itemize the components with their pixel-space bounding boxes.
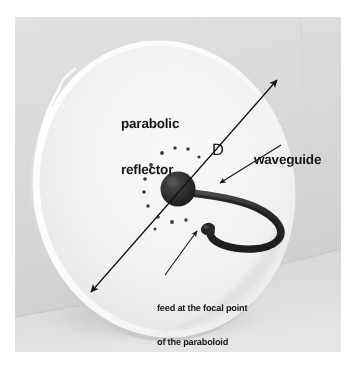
label-diameter-d: D	[212, 141, 224, 159]
label-waveguide: waveguide	[254, 152, 321, 167]
label-parabolic-reflector: parabolic reflector	[121, 86, 179, 207]
antenna-photograph: parabolic reflector D waveguide feed at …	[15, 17, 341, 352]
label-feed-caption-line1: feed at the focal point	[157, 303, 247, 314]
figure-root: parabolic reflector D waveguide feed at …	[0, 0, 351, 369]
label-parabolic-reflector-line1: parabolic	[121, 116, 179, 131]
label-feed-caption-line2: of the paraboloid	[157, 337, 247, 348]
label-feed-caption: feed at the focal point of the paraboloi…	[157, 281, 247, 352]
label-parabolic-reflector-line2: reflector	[121, 162, 179, 177]
